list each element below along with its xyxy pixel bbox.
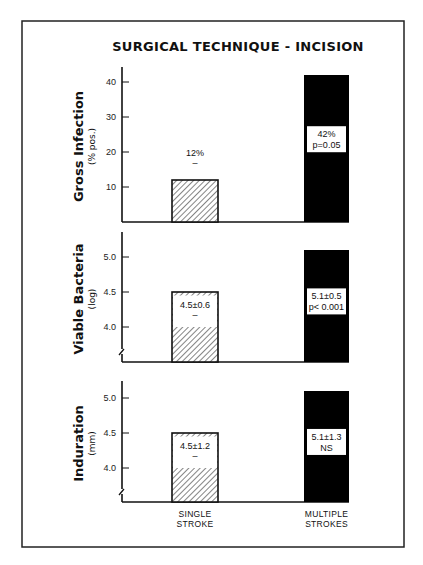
y-axis-unit: (log) — [87, 289, 97, 310]
y-tick-label: 5.0 — [103, 393, 116, 403]
y-axis-unit: (% pos.) — [87, 128, 97, 165]
y-tick-label: 4.5 — [103, 287, 116, 297]
y-axis-label: Viable Bacteria — [71, 243, 86, 354]
y-tick-label: 4.5 — [103, 428, 116, 438]
x-category-label: STROKES — [305, 519, 348, 529]
bar-value-label: 12% — [186, 148, 204, 158]
x-category-label: MULTIPLE — [305, 509, 348, 519]
y-axis-unit: (mm) — [87, 431, 97, 456]
y-tick-label: 4.0 — [103, 463, 116, 473]
y-tick-label: 40 — [106, 77, 116, 87]
x-category-label: STROKE — [177, 519, 214, 529]
y-tick-label: 4.0 — [103, 322, 116, 332]
y-tick-label: 10 — [106, 182, 116, 192]
x-category-label: SINGLE — [179, 509, 212, 519]
bar-significance-label: NS — [320, 443, 333, 453]
y-axis-label: Induration — [71, 405, 86, 482]
bar-value-label: 5.1±1.3 — [312, 432, 342, 442]
bar-value-label: 5.1±0.5 — [312, 291, 342, 301]
x-category-labels: SINGLESTROKEMULTIPLESTROKES — [177, 509, 349, 529]
bar-value-label: 4.5±0.6 — [180, 300, 210, 310]
bar-value-label: 4.5±1.2 — [180, 441, 210, 451]
bar-significance-label: – — [192, 451, 197, 461]
chart-title: SURGICAL TECHNIQUE - INCISION — [112, 39, 364, 54]
bar-value-label: 42% — [317, 129, 335, 139]
panel-gross-infection: 10203040Gross Infection(% pos.)12%–42%p=… — [71, 67, 349, 222]
panel-induration: 4.04.55.0Induration(mm)4.5±1.2–5.1±1.3NS — [71, 381, 349, 502]
chart-figure: SURGICAL TECHNIQUE - INCISION 10203040Gr… — [0, 0, 423, 565]
y-tick-label: 5.0 — [103, 252, 116, 262]
bar-significance-label: p< 0.001 — [309, 302, 344, 312]
y-tick-label: 30 — [106, 112, 116, 122]
bar-significance-label: – — [192, 310, 197, 320]
y-tick-label: 20 — [106, 147, 116, 157]
bar-significance-label: – — [192, 158, 197, 168]
y-axis-label: Gross Infection — [71, 91, 86, 202]
bar-single-stroke — [172, 180, 218, 222]
panel-viable-bacteria: 4.04.55.0Viable Bacteria(log)4.5±0.6–5.1… — [71, 232, 349, 362]
bar-significance-label: p=0.05 — [313, 140, 341, 150]
